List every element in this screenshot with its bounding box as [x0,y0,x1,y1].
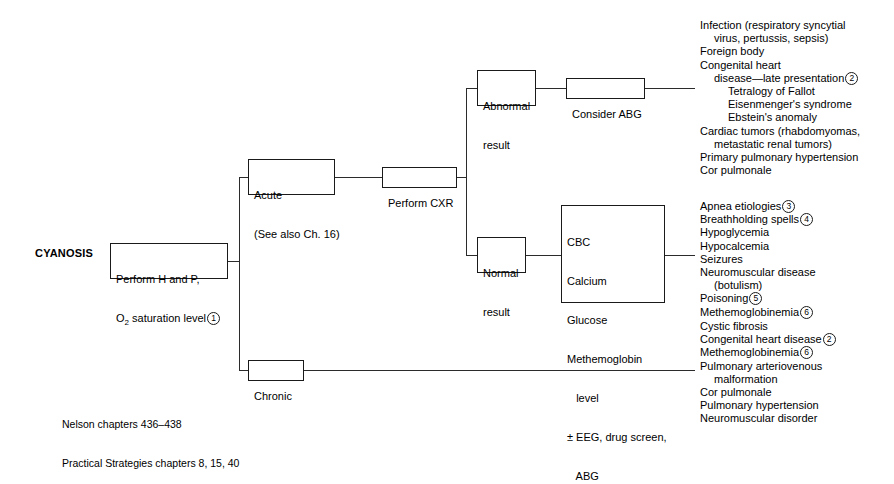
connector-cxr-trunk [466,88,467,256]
lab-item: CBC [567,236,660,249]
list-item: Cor pulmonale [700,164,860,177]
list-item: Seizures [700,253,816,266]
list-item: disease—late presentation2 [700,72,860,85]
root-o2-pre: O [116,312,125,324]
reference-marker-2: 2 [845,72,858,85]
list-item-text: Foreign body [700,45,764,57]
root-o2-post: saturation level [129,312,206,324]
list-item: Neuromuscular disorder [700,412,836,425]
list-item-text: Infection (respiratory syncytial [700,19,846,31]
list-item: Ebstein's anomaly [700,111,860,124]
list-item-text: Poisoning [700,292,748,304]
lab-item: Calcium [567,275,660,288]
lab-item: ABG [567,470,660,483]
box-chronic[interactable]: Chronic [248,360,304,381]
footnote-references: Nelson chapters 436–438 Practical Strate… [62,392,239,484]
connector-abnormal-to-abg [536,88,566,89]
lab-item: level [567,392,660,405]
list-item-text: Tetralogy of Fallot [728,85,815,97]
list-item: Pulmonary arteriovenous [700,360,836,373]
list-item: Poisoning5 [700,292,816,305]
list-item-text: Congenital heart disease [700,333,822,345]
box-normal-result-line1: Normal [483,267,521,280]
lab-item: Glucose [567,314,660,327]
connector-abg-to-abnormal-list [645,88,695,89]
list-item-text: virus, pertussis, sepsis) [714,32,828,44]
list-item: Cardiac tumors (rhabdomyomas, [700,125,860,138]
root-box-line2: O2 saturation level1 [116,312,223,329]
list-item: Foreign body [700,45,860,58]
list-item: Neuromuscular disease [700,266,816,279]
box-acute-line2: (See also Ch. 16) [254,228,330,241]
list-item-text: Hypoglycemia [700,226,769,238]
list-item: malformation [700,373,836,386]
box-normal-result[interactable]: Normal result [477,237,526,273]
list-item-text: Congenital heart [700,59,781,71]
list-item-text: Ebstein's anomaly [728,111,817,123]
box-perform-cxr[interactable]: Perform CXR [382,167,457,188]
list-item-text: Primary pulmonary hypertension [700,151,858,163]
box-acute[interactable]: Acute (See also Ch. 16) [248,159,335,195]
box-abnormal-result-line1: Abnormal [483,100,531,113]
list-item-text: disease—late presentation [714,72,844,84]
list-item: metastatic renal tumors) [700,138,860,151]
list-item: Apnea etiologies3 [700,200,816,213]
normal-result-differential-list: Apnea etiologies3Breathholding spells4Hy… [700,200,816,319]
list-item-text: Pulmonary hypertension [700,399,819,411]
root-box-line1: Perform H and P, [116,273,223,286]
list-item: Methemoglobinemia6 [700,346,836,359]
list-item-text: Cardiac tumors (rhabdomyomas, [700,125,860,137]
list-item: Methemoglobinemia6 [700,306,816,319]
box-chronic-label: Chronic [254,390,299,403]
footnote-line: Nelson chapters 436–438 [62,418,239,431]
list-item: Congenital heart [700,59,860,72]
box-abnormal-result-line2: result [483,139,531,152]
list-item-text: Neuromuscular disease [700,266,816,278]
box-consider-abg[interactable]: Consider ABG [566,78,645,99]
list-item-text: malformation [714,373,778,385]
list-item-text: Cor pulmonale [700,164,772,176]
list-item: Cystic fibrosis [700,320,836,333]
reference-marker-6: 6 [800,346,813,359]
list-item-text: Neuromuscular disorder [700,412,817,424]
root-box-perform-hp[interactable]: Perform H and P, O2 saturation level1 [110,243,228,279]
list-item-text: Eisenmenger's syndrome [728,98,852,110]
list-item-text: Pulmonary arteriovenous [700,360,822,372]
list-item-text: Cor pulmonale [700,386,772,398]
connector-acute-to-cxr [335,177,382,178]
reference-marker-5: 5 [749,292,762,305]
list-item: Infection (respiratory syncytial [700,19,860,32]
list-item: Pulmonary hypertension [700,399,836,412]
list-item: Breathholding spells4 [700,213,816,226]
footnote-line: Practical Strategies chapters 8, 15, 40 [62,457,239,470]
connector-labs-to-normal-list [665,255,695,256]
list-item: Cor pulmonale [700,386,836,399]
connector-root-trunk [239,177,240,371]
chronic-differential-list: Cystic fibrosisCongenital heart disease2… [700,320,836,426]
box-consider-abg-label: Consider ABG [572,108,640,121]
reference-marker-6: 6 [800,306,813,319]
list-item-text: Apnea etiologies [700,200,781,212]
list-item: Hypocalcemia [700,240,816,253]
list-item-text: metastatic renal tumors) [714,138,832,150]
lab-item: Methemoglobin [567,353,660,366]
reference-marker-2: 2 [823,333,836,346]
list-item: Tetralogy of Fallot [700,85,860,98]
reference-marker-1: 1 [207,312,220,325]
connector-normal-to-labs [526,255,561,256]
box-abnormal-result[interactable]: Abnormal result [477,70,536,106]
list-item: Primary pulmonary hypertension [700,151,860,164]
list-item-text: Hypocalcemia [700,240,769,252]
list-item: (botulism) [700,279,816,292]
list-item-text: Breathholding spells [700,213,799,225]
reference-marker-4: 4 [800,213,813,226]
box-lab-workup[interactable]: CBC Calcium Glucose Methemoglobin level … [561,205,665,303]
list-item-text: (botulism) [714,279,762,291]
box-normal-result-line2: result [483,306,521,319]
list-item-text: Cystic fibrosis [700,320,768,332]
abnormal-result-differential-list: Infection (respiratory syncytialvirus, p… [700,19,860,177]
page-title: CYANOSIS [35,247,93,260]
list-item-text: Methemoglobinemia [700,346,799,358]
reference-marker-3: 3 [782,200,795,213]
